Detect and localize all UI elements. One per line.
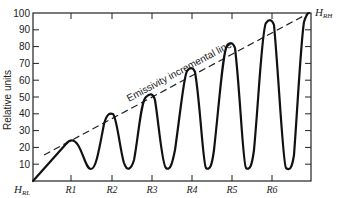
y-axis-label: Relative units <box>2 70 13 130</box>
y-tick-80: 80 <box>19 41 31 52</box>
y-tick-60: 60 <box>19 75 31 86</box>
chart: 10 20 30 40 50 60 70 80 90 100 Relative … <box>0 0 339 198</box>
emissivity-line-label: Emissivity incremental line <box>125 38 234 103</box>
y-tick-70: 70 <box>19 58 31 69</box>
x-axis-ticks <box>71 175 272 181</box>
y-tick-20: 20 <box>19 142 31 153</box>
response-curve <box>33 13 309 181</box>
y-tick-10: 10 <box>19 159 31 170</box>
x-tick-r2: R2 <box>105 184 117 195</box>
x-tick-r5: R5 <box>225 184 237 195</box>
y-tick-30: 30 <box>19 125 31 136</box>
end-label: HRH <box>314 6 333 20</box>
x-tick-r1: R1 <box>64 184 76 195</box>
plot-frame <box>33 13 311 181</box>
x-tick-labels: R1 R2 R3 R4 R5 R6 <box>64 184 277 195</box>
origin-label: HRL <box>13 183 30 197</box>
top-axis-ticks <box>71 13 272 19</box>
y-tick-90: 90 <box>19 24 31 35</box>
y-tick-40: 40 <box>19 108 31 119</box>
y-tick-50: 50 <box>19 92 31 103</box>
x-tick-r3: R3 <box>145 184 157 195</box>
right-axis-ticks <box>305 30 311 164</box>
x-tick-r4: R4 <box>185 184 197 195</box>
y-tick-100: 100 <box>13 8 30 19</box>
x-tick-r6: R6 <box>265 184 277 195</box>
y-axis-ticks <box>33 30 39 164</box>
y-tick-labels: 10 20 30 40 50 60 70 80 90 100 <box>13 8 30 170</box>
